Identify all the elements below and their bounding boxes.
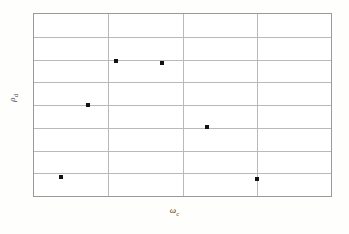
- y-axis-label: ρd: [7, 94, 19, 102]
- data-point: [59, 175, 63, 179]
- plot-area: [33, 13, 332, 197]
- data-point: [205, 125, 209, 129]
- x-axis-label: ωc: [0, 205, 349, 217]
- data-point: [255, 177, 259, 181]
- gridline-vertical: [183, 14, 184, 196]
- gridline-vertical: [108, 14, 109, 196]
- figure-canvas: ωc ρd: [0, 0, 349, 234]
- x-axis-label-subscript: c: [176, 210, 179, 217]
- gridline-vertical: [257, 14, 258, 196]
- y-axis-label-subscript: d: [12, 94, 19, 97]
- data-point: [114, 59, 118, 63]
- data-point: [160, 61, 164, 65]
- data-point: [86, 103, 90, 107]
- y-axis-label-symbol: ρ: [7, 97, 17, 101]
